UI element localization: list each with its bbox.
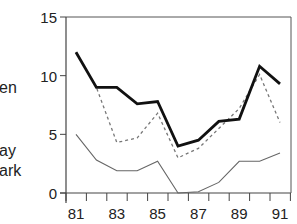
series-lines xyxy=(76,52,280,193)
y-axis: 051015 xyxy=(40,9,66,202)
line-chart: 051015 818385878991 xyxy=(0,0,297,224)
y-tick-label: 10 xyxy=(40,68,57,85)
y-tick-label: 5 xyxy=(49,126,57,143)
x-tick-label: 87 xyxy=(190,205,207,222)
x-tick-label: 91 xyxy=(272,205,289,222)
series-line-ay xyxy=(76,52,280,158)
x-tick-label: 83 xyxy=(108,205,125,222)
series-line-en xyxy=(76,52,280,146)
y-tick-label: 0 xyxy=(49,185,57,202)
x-tick-label: 81 xyxy=(68,205,85,222)
x-tick-label: 89 xyxy=(231,205,248,222)
y-tick-label: 15 xyxy=(40,9,57,26)
x-tick-label: 85 xyxy=(149,205,166,222)
plot-frame xyxy=(60,17,291,203)
x-axis: 818385878991 xyxy=(66,193,290,222)
